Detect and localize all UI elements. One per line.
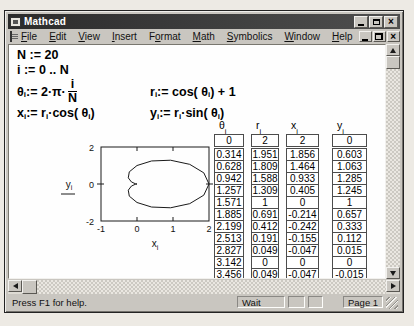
window-title: Mathcad xyxy=(24,16,66,27)
menu-item-help[interactable]: Help xyxy=(326,31,359,42)
table-cell: 0.942 xyxy=(214,172,244,185)
table-cell: 1.588 xyxy=(251,172,279,185)
plot-frame xyxy=(101,147,209,221)
menu-item-edit[interactable]: Edit xyxy=(43,31,72,42)
app-icon[interactable] xyxy=(10,17,21,27)
math-expression[interactable]: xi := ri·cos( θi ) xyxy=(17,106,150,120)
table-cell: 1.885 xyxy=(214,208,244,221)
x-axis-label: xi xyxy=(152,238,159,251)
xy-plot: -1012-202yixi xyxy=(35,135,227,253)
table-cell: 0 xyxy=(332,134,367,147)
menu-bar: FileEditViewInsertFormatMathSymbolicsWin… xyxy=(8,29,400,44)
child-restore-button[interactable] xyxy=(373,31,386,42)
child-close-icon: × xyxy=(390,32,396,42)
table-header: xi xyxy=(286,119,319,134)
table-cell: 0.333 xyxy=(332,220,367,233)
document-icon[interactable] xyxy=(10,31,12,42)
table-cell: 3.142 xyxy=(214,256,244,269)
child-restore-icon xyxy=(375,33,383,40)
menu-item-view[interactable]: View xyxy=(72,31,106,42)
menu-item-window[interactable]: Window xyxy=(278,31,326,42)
vertical-scroll-thumb[interactable] xyxy=(386,56,400,69)
table-cell: 1.257 xyxy=(214,184,244,197)
y-tick-label: 2 xyxy=(89,143,94,153)
menu-bar-items: FileEditViewInsertFormatMathSymbolicsWin… xyxy=(15,31,359,42)
table-cell: 0.112 xyxy=(332,232,367,245)
table-cell: 1.951 xyxy=(251,148,279,161)
table-cell: 1.571 xyxy=(214,196,244,209)
horizontal-scroll-track[interactable] xyxy=(37,280,386,294)
table-cell: -0.214 xyxy=(286,208,319,221)
math-expression[interactable]: θi := 2·π·iN xyxy=(17,78,150,105)
math-expression[interactable]: i := 0 .. N xyxy=(17,63,150,77)
math-expression[interactable]: ri := cos( θi ) + 1 xyxy=(150,85,236,99)
cardioid-trace xyxy=(128,160,209,208)
table-cell: 0.015 xyxy=(332,244,367,257)
xy-plot-region[interactable]: -1012-202yixi xyxy=(35,135,227,257)
menu-item-file[interactable]: File xyxy=(15,31,43,42)
arrow-left-icon xyxy=(13,283,18,289)
status-panel-2 xyxy=(288,296,305,308)
table-header: θi xyxy=(214,119,244,134)
table-cell: 0.314 xyxy=(214,148,244,161)
x-tick-label: 0 xyxy=(134,224,139,234)
worksheet[interactable]: N := 20i := 0 .. Nθi := 2·π·iNri := cos(… xyxy=(8,44,386,279)
table-cell: 3.456 xyxy=(214,268,244,279)
scroll-right-button[interactable] xyxy=(386,280,400,292)
menu-item-symbolics[interactable]: Symbolics xyxy=(221,31,279,42)
vertical-scrollbar[interactable] xyxy=(386,44,400,279)
table-cell: 2 xyxy=(251,134,279,147)
child-close-button[interactable]: × xyxy=(387,31,400,42)
title-bar: Mathcad × xyxy=(8,14,400,29)
scroll-down-button[interactable] xyxy=(386,267,400,279)
resize-grip[interactable] xyxy=(386,297,398,309)
child-minimize-icon xyxy=(362,39,368,41)
math-region: N := 20i := 0 .. Nθi := 2·π·iNri := cos(… xyxy=(17,48,236,121)
table-cell: 1.063 xyxy=(332,160,367,173)
table-cell: 0.049 xyxy=(251,268,279,279)
table-cell: -0.155 xyxy=(286,232,319,245)
arrow-right-icon xyxy=(391,283,396,289)
table-cell: 0.691 xyxy=(251,208,279,221)
output-table: xi21.8561.4640.9330.4050-0.214-0.242-0.1… xyxy=(286,119,319,279)
menu-item-format[interactable]: Format xyxy=(143,31,187,42)
table-cell: 2 xyxy=(286,134,319,147)
table-cell: 1.856 xyxy=(286,148,319,161)
scroll-up-button[interactable] xyxy=(386,44,400,56)
main-area: N := 20i := 0 .. Nθi := 2·π·iNri := cos(… xyxy=(8,44,400,279)
output-table: θi00.3140.6280.9421.2571.5711.8852.1992.… xyxy=(214,119,244,279)
y-axis-label: yi xyxy=(66,179,73,192)
table-cell: 2.827 xyxy=(214,244,244,257)
minimize-button[interactable] xyxy=(354,16,368,28)
table-cell: 1.464 xyxy=(286,160,319,173)
x-tick-label: 1 xyxy=(170,224,175,234)
output-table: ri21.9511.8091.5881.30910.6910.4120.1910… xyxy=(251,119,279,279)
arrow-up-icon xyxy=(390,48,396,53)
y-tick-label: -2 xyxy=(86,217,94,227)
horizontal-scroll-thumb[interactable] xyxy=(22,280,37,294)
status-page: Page 1 xyxy=(343,296,383,308)
maximize-icon xyxy=(373,19,380,25)
table-cell: 1.309 xyxy=(251,184,279,197)
table-cell: 2.199 xyxy=(214,220,244,233)
status-panel-3 xyxy=(308,296,323,308)
table-cell: 0.049 xyxy=(251,244,279,257)
table-cell: -0.015 xyxy=(332,268,367,279)
output-tables-region[interactable]: θi00.3140.6280.9421.2571.5711.8852.1992.… xyxy=(214,119,367,279)
menu-item-insert[interactable]: Insert xyxy=(106,31,143,42)
status-bar: Press F1 for help. Wait Page 1 xyxy=(8,294,400,309)
status-message: Press F1 for help. xyxy=(12,297,87,308)
fraction: iN xyxy=(68,78,77,105)
table-cell: 0.405 xyxy=(286,184,319,197)
menu-item-math[interactable]: Math xyxy=(187,31,221,42)
math-expression[interactable]: N := 20 xyxy=(17,48,150,62)
table-header: yi xyxy=(332,119,367,134)
vertical-scroll-track[interactable] xyxy=(386,69,400,267)
status-mode: Wait xyxy=(237,296,285,308)
scroll-left-button[interactable] xyxy=(8,280,22,292)
maximize-button[interactable] xyxy=(369,16,383,28)
table-cell: -0.047 xyxy=(286,268,319,279)
horizontal-scrollbar[interactable] xyxy=(8,280,400,294)
child-minimize-button[interactable] xyxy=(359,31,372,42)
close-button[interactable]: × xyxy=(384,16,398,28)
